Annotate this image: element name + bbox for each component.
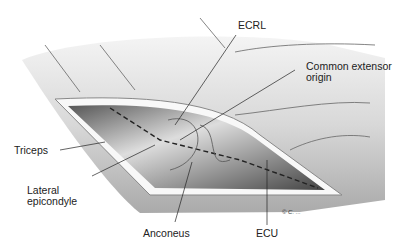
label-lateral-epicondyle: Lateral epicondyle [27, 185, 77, 207]
label-common-extensor-origin: Common extensor origin [306, 61, 392, 83]
label-triceps: Triceps [14, 145, 48, 156]
label-ecu: ECU [256, 228, 278, 239]
label-anconeus: Anconeus [143, 228, 190, 239]
label-ecrl: ECRL [238, 20, 266, 31]
arm-drawing [0, 0, 405, 245]
anatomy-illustration: ECRL Common extensor origin Triceps Late… [0, 0, 405, 245]
artist-signature: © C. ... [282, 207, 301, 218]
